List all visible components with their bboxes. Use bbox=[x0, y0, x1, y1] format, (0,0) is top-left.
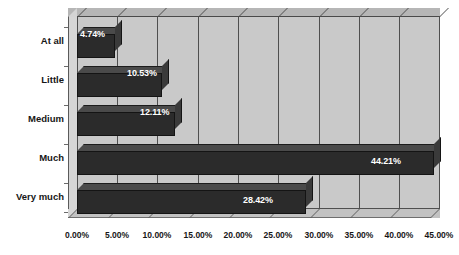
y-axis-category-labels: At all Little Medium Much Very much bbox=[0, 0, 64, 255]
gridline-35 bbox=[359, 17, 360, 209]
y-axis-label-little: Little bbox=[41, 74, 64, 85]
x-axis-tick-label-25: 25.00% bbox=[264, 230, 293, 240]
plot-floor-front-edge bbox=[68, 217, 431, 218]
x-axis-tick-label-30: 30.00% bbox=[305, 230, 334, 240]
gridline-bevel-45 bbox=[439, 8, 449, 17]
y-axis-label-medium: Medium bbox=[28, 113, 64, 124]
gridline-20 bbox=[238, 17, 239, 209]
x-axis-tick-label-40: 40.00% bbox=[385, 230, 414, 240]
x-axis-tick-label-0: 0.00% bbox=[65, 230, 89, 240]
y-axis-label-at-all: At all bbox=[41, 35, 64, 46]
data-label-medium: 12.11% bbox=[140, 107, 169, 117]
x-axis-tick-label-45: 45.00% bbox=[425, 230, 454, 240]
data-label-little: 10.53% bbox=[127, 68, 157, 78]
bar-chart-figure: At all Little Medium Much Very much bbox=[0, 0, 459, 255]
x-axis-tick-label-5: 5.00% bbox=[105, 230, 129, 240]
gridline-15 bbox=[198, 17, 199, 209]
data-label-at-all: 4.74% bbox=[80, 29, 105, 39]
x-axis-tick-label-15: 15.00% bbox=[184, 230, 213, 240]
x-axis-tick-label-20: 20.00% bbox=[224, 230, 253, 240]
plot-left-wall bbox=[68, 17, 77, 209]
gridline-45 bbox=[439, 17, 440, 209]
x-axis-tick-label-10: 10.00% bbox=[143, 230, 172, 240]
y-axis-label-very-much: Very much bbox=[16, 191, 64, 202]
bar-top-face bbox=[77, 144, 441, 151]
gridline-25 bbox=[278, 17, 279, 209]
gridline-30 bbox=[319, 17, 320, 209]
bar-top-face bbox=[77, 183, 313, 190]
data-label-very-much: 28.42% bbox=[243, 195, 273, 205]
data-label-much: 44.21% bbox=[371, 156, 401, 166]
y-axis-label-much: Much bbox=[39, 152, 64, 163]
plot-area-3d: 4.74% 10.53% 12.11% 44.21% 28.42% 0.00% … bbox=[68, 8, 440, 218]
gridline-40 bbox=[399, 17, 400, 209]
x-axis-tick-label-35: 35.00% bbox=[345, 230, 374, 240]
